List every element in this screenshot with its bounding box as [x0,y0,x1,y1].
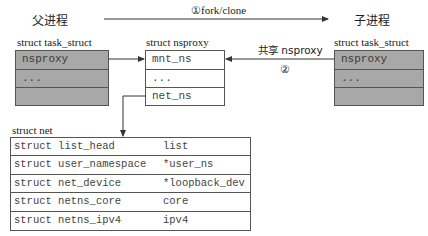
fork-clone-label: ①fork/clone [191,4,246,17]
net-row: struct netns_ipv4ipv4 [11,212,250,230]
net-row: struct netns_corecore [11,193,250,211]
child-process-title: 子进程 [354,11,390,28]
net-row-field: *loopback_dev [163,175,245,192]
child-nsproxy-field: nsproxy [335,51,423,70]
nsproxy-struct-label: struct nsproxy [146,36,209,48]
nsproxy-box: mnt_ns ... net_ns [145,50,225,106]
struct-net-label: struct net [12,124,53,136]
child-task-struct-label: struct task_struct [334,36,409,48]
parent-task-struct-label: struct task_struct [17,36,92,48]
net-row-type: struct netns_ipv4 [14,212,121,229]
child-empty-field [335,88,423,107]
net-row-field: core [163,193,188,210]
parent-task-struct-box: nsproxy ... [15,50,109,106]
nsproxy-ellipsis-field: ... [146,70,224,89]
net-row-field: *user_ns [163,156,213,173]
net-row-type: struct netns_core [14,193,121,210]
share-nsproxy-label: 共享 nsproxy [258,42,323,57]
mnt-ns-field: mnt_ns [146,51,224,70]
net-row-type: struct user_namespace [14,156,146,173]
parent-nsproxy-field: nsproxy [16,51,108,70]
net-ns-arrow [123,96,145,136]
net-row-field: ipv4 [163,212,188,229]
net-ns-field: net_ns [146,88,224,107]
child-ellipsis-field: ... [335,70,423,89]
parent-ellipsis-field: ... [16,70,108,89]
child-task-struct-box: nsproxy ... [334,50,424,106]
parent-process-title: 父进程 [32,11,68,28]
struct-net-table: struct list_headlist struct user_namespa… [10,137,251,231]
parent-empty-field [16,88,108,107]
net-row-field: list [163,138,188,155]
share-step-label: ② [280,63,290,76]
net-row-type: struct list_head [14,138,115,155]
net-row: struct list_headlist [11,138,250,156]
net-row-type: struct net_device [14,175,121,192]
net-row: struct user_namespace*user_ns [11,156,250,174]
net-row: struct net_device*loopback_dev [11,175,250,193]
